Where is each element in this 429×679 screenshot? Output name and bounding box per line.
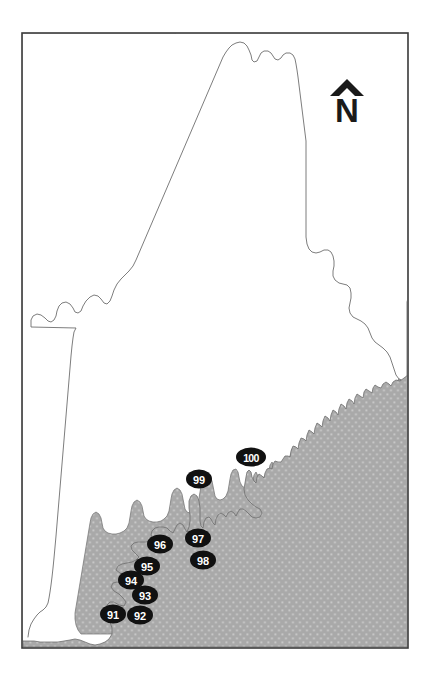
site-marker-91[interactable]: 91 bbox=[100, 605, 126, 624]
marker-shape-98[interactable] bbox=[190, 551, 216, 570]
marker-shape-92[interactable] bbox=[127, 606, 153, 625]
site-marker-92[interactable]: 92 bbox=[127, 606, 153, 625]
map-figure: 919293949596979899100 N bbox=[0, 0, 429, 679]
marker-shape-91[interactable] bbox=[100, 605, 126, 624]
marker-shape-100[interactable] bbox=[236, 448, 266, 467]
marker-shape-99[interactable] bbox=[186, 470, 212, 489]
marker-shape-96[interactable] bbox=[147, 535, 173, 554]
site-marker-96[interactable]: 96 bbox=[147, 535, 173, 554]
map-canvas: 919293949596979899100 N bbox=[0, 0, 429, 679]
site-marker-99[interactable]: 99 bbox=[186, 470, 212, 489]
site-marker-100[interactable]: 100 bbox=[236, 448, 266, 467]
site-marker-97[interactable]: 97 bbox=[185, 529, 211, 548]
marker-shape-97[interactable] bbox=[185, 529, 211, 548]
site-marker-98[interactable]: 98 bbox=[190, 551, 216, 570]
north-letter: N bbox=[335, 92, 359, 129]
marker-shape-95[interactable] bbox=[134, 557, 160, 576]
site-marker-95[interactable]: 95 bbox=[134, 557, 160, 576]
